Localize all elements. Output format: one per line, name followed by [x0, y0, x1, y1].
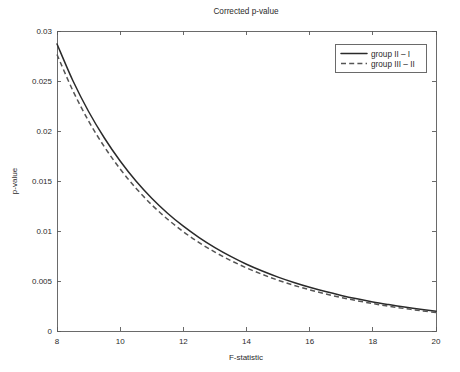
x-tick-label: 10 [116, 337, 125, 346]
chart-title: Corrected p-value [213, 7, 279, 16]
x-tick-label: 16 [305, 337, 314, 346]
legend[interactable]: group II – I group III – II [335, 44, 426, 72]
data-curves [57, 44, 436, 313]
x-axis-ticks [57, 31, 436, 331]
y-tick-label: 0.02 [36, 127, 52, 136]
y-axis-label: p-value [10, 167, 19, 194]
y-tick-label: 0.005 [32, 277, 53, 286]
y-tick-label: 0.01 [36, 227, 52, 236]
x-tick-label: 12 [179, 337, 188, 346]
y-tick-label: 0 [48, 327, 53, 336]
x-tick-label: 20 [432, 337, 441, 346]
y-tick-label: 0.015 [32, 177, 53, 186]
x-tick-label: 14 [242, 337, 251, 346]
legend-label-group-iii-ii: group III – II [371, 60, 415, 69]
y-axis-ticks [57, 31, 436, 331]
legend-label-group-ii-i: group II – I [371, 50, 410, 59]
x-axis-label: F-statistic [229, 353, 263, 362]
chart-svg: Corrected p-value 8101214161820 00.0050.… [0, 0, 460, 372]
plot-frame [57, 31, 436, 331]
x-tick-label: 18 [368, 337, 377, 346]
figure-canvas: Corrected p-value 8101214161820 00.0050.… [0, 0, 460, 372]
y-axis-tick-labels: 00.0050.010.0150.020.0250.03 [32, 27, 53, 336]
curve-series-1 [57, 55, 436, 313]
x-axis-tick-labels: 8101214161820 [55, 337, 441, 346]
y-tick-label: 0.03 [36, 27, 52, 36]
curve-series-0 [57, 44, 436, 311]
y-tick-label: 0.025 [32, 77, 53, 86]
x-tick-label: 8 [55, 337, 60, 346]
